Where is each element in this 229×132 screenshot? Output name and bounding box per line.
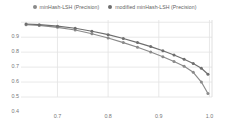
legend-label: modified minHash-LSH (Precision): [115, 4, 196, 11]
x-axis-title: Recall: [0, 130, 229, 132]
legend-item-minhash-lsh[interactable]: minHash-LSH (Precision): [33, 4, 100, 11]
data-point-marker: [183, 58, 186, 61]
data-point-marker: [56, 25, 59, 28]
data-point-marker: [149, 45, 152, 48]
data-point-marker: [161, 55, 164, 58]
y-axis-tick-label: 0.5: [2, 93, 19, 99]
x-axis-tick-labels: 0.70.80.91.0: [0, 113, 229, 125]
data-point-marker: [25, 23, 28, 26]
data-point-marker: [122, 37, 125, 40]
data-point-marker: [38, 23, 41, 26]
y-axis-tick-label: 0.6: [2, 78, 19, 84]
data-point-marker: [183, 65, 186, 68]
y-axis-tick-label: 0.8: [2, 48, 19, 54]
data-point-marker: [206, 92, 209, 95]
data-point-marker: [192, 62, 195, 65]
x-axis-tick-label: 1.0: [206, 113, 214, 120]
data-point-marker: [173, 53, 176, 56]
plot-area: 0.90.80.70.60.50.4 0.70.80.91.0 Recall: [0, 14, 229, 132]
data-point-marker: [74, 27, 77, 30]
y-axis-tick-label: 0.9: [2, 33, 19, 39]
data-point-marker: [161, 49, 164, 52]
data-point-marker: [90, 30, 93, 33]
x-axis-tick-label: 0.7: [54, 113, 62, 120]
circle-marker-icon: [108, 5, 112, 9]
data-point-marker: [200, 81, 203, 84]
data-point-marker: [200, 67, 203, 70]
data-point-marker: [149, 51, 152, 54]
precision-recall-chart: minHash-LSH (Precision) modified minHash…: [0, 0, 229, 132]
data-point-marker: [107, 33, 110, 36]
data-point-marker: [192, 71, 195, 74]
legend-label: minHash-LSH (Precision): [40, 4, 100, 11]
data-point-marker: [136, 41, 139, 44]
data-point-marker: [90, 32, 93, 35]
legend-item-modified-minhash-lsh[interactable]: modified minHash-LSH (Precision): [108, 4, 196, 11]
circle-marker-icon: [33, 5, 37, 9]
data-point-marker: [206, 73, 209, 76]
data-point-marker: [136, 46, 139, 49]
data-point-marker: [122, 41, 125, 44]
x-axis-tick-label: 0.9: [155, 113, 163, 120]
series-line-0: [26, 25, 208, 94]
data-point-marker: [107, 36, 110, 39]
chart-legend: minHash-LSH (Precision) modified minHash…: [0, 0, 229, 14]
x-axis-tick-label: 0.8: [104, 113, 112, 120]
y-axis-tick-label: 0.7: [2, 63, 19, 69]
data-point-marker: [173, 60, 176, 63]
